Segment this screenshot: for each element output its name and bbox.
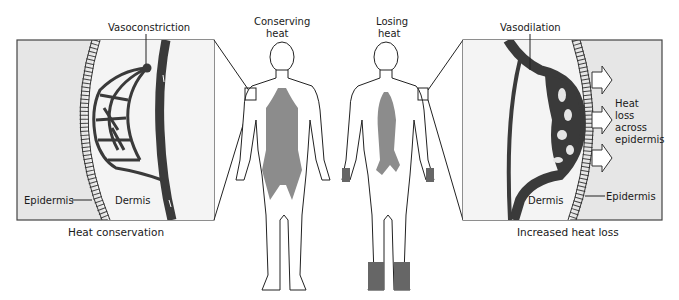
vasoconstriction-label: Vasoconstriction (108, 22, 190, 33)
losing-title-line1: Losing (376, 16, 408, 27)
body-figure-losing: Losing heat (342, 16, 434, 290)
heat-loss-label-line1: Heat (615, 98, 639, 109)
conserving-title-line2: heat (266, 28, 289, 39)
increased-heat-loss-caption: Increased heat loss (517, 226, 619, 238)
dermis-label-right: Dermis (528, 195, 564, 206)
heat-loss-label-line3: across (615, 122, 647, 133)
constriction-point (143, 64, 152, 73)
vasodilation-label: Vasodilation (500, 22, 561, 33)
thermoregulation-diagram: Vasoconstriction Epidermis Dermis Heat c… (0, 0, 679, 300)
body-figure-conserving: Conserving heat (236, 16, 330, 290)
losing-title-line2: heat (378, 28, 401, 39)
heat-loss-label-line2: loss (615, 110, 634, 121)
conserving-title-line1: Conserving (254, 16, 310, 27)
epidermis-label-right: Epidermis (606, 191, 656, 202)
heat-conservation-caption: Heat conservation (68, 226, 164, 238)
heat-loss-arrows (592, 66, 612, 172)
heat-loss-label-line4: epidermis (615, 134, 664, 145)
right-inset-panel: Vasodilation Heat loss across epidermis … (463, 22, 664, 238)
dermis-label-left: Dermis (115, 195, 151, 206)
left-inset-panel: Vasoconstriction Epidermis Dermis Heat c… (17, 22, 214, 238)
epidermis-label-left: Epidermis (24, 195, 74, 206)
